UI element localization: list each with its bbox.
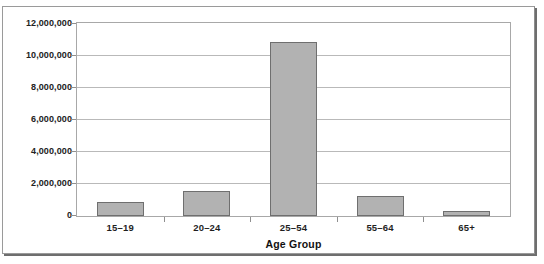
bar-slot [164, 23, 251, 216]
bar-slot [77, 23, 164, 216]
x-axis-title: Age Group [76, 238, 511, 250]
bar-chart: 02,000,0004,000,0006,000,0008,000,00010,… [2, 6, 535, 254]
x-axis-tick-label: 65+ [423, 222, 510, 233]
x-axis-tick-label: 20–24 [164, 222, 251, 233]
y-axis-tick-label: 6,000,000 [31, 114, 72, 124]
x-axis-tick-mark [423, 217, 424, 222]
frame-bottom-shadow [4, 254, 537, 256]
bar[interactable] [97, 202, 144, 216]
y-axis-tick-mark [71, 87, 76, 88]
x-axis-tick-label: 25–54 [250, 222, 337, 233]
bar[interactable] [270, 42, 317, 216]
y-axis-tick-label: 10,000,000 [26, 50, 72, 60]
chart-screenshot: 02,000,0004,000,0006,000,0008,000,00010,… [0, 0, 544, 264]
x-axis-tick-label: 55–64 [337, 222, 424, 233]
bar-slot [337, 23, 424, 216]
frame-right-shadow [535, 8, 537, 256]
y-axis-tick-mark [71, 215, 76, 216]
bar[interactable] [183, 191, 230, 216]
bar-slot [250, 23, 337, 216]
y-axis-tick-mark [71, 119, 76, 120]
x-axis-tick-mark [250, 217, 251, 222]
y-axis-tick-label: 12,000,000 [26, 18, 72, 28]
x-axis-tick-mark [164, 217, 165, 222]
y-axis-tick-label: 8,000,000 [31, 82, 72, 92]
bar[interactable] [357, 196, 404, 216]
y-axis-tick-mark [71, 23, 76, 24]
y-axis-tick-mark [71, 183, 76, 184]
bar-series [77, 23, 510, 216]
x-axis-tick-mark [337, 217, 338, 222]
y-axis-tick-mark [71, 55, 76, 56]
bar-slot [423, 23, 510, 216]
x-axis-tick-label: 15–19 [77, 222, 164, 233]
y-axis-tick-mark [71, 151, 76, 152]
bar[interactable] [443, 211, 490, 216]
y-axis-tick-label: 4,000,000 [31, 146, 72, 156]
y-axis-tick-label: 2,000,000 [31, 178, 72, 188]
